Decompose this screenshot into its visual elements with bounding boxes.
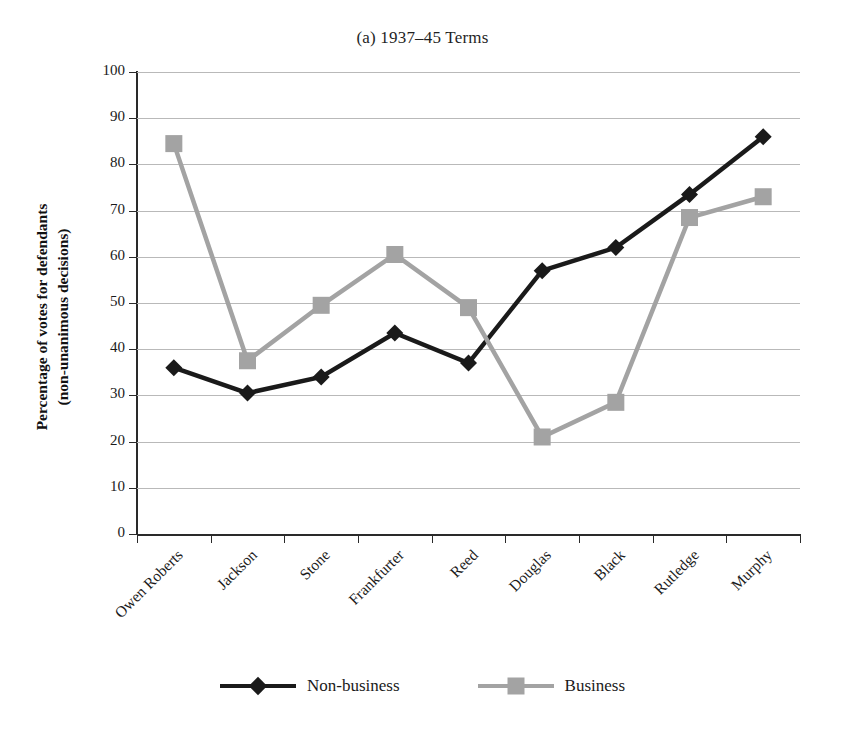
y-tick-mark-80 — [129, 164, 137, 165]
y-tick-mark-100 — [129, 72, 137, 73]
legend-label: Non-business — [307, 676, 400, 696]
y-tick-label-90: 90 — [79, 108, 125, 125]
y-tick-label-70: 70 — [79, 201, 125, 218]
y-tick-label-10: 10 — [79, 478, 125, 495]
data-point-marker — [386, 246, 403, 263]
data-point-marker — [681, 209, 698, 226]
legend-item-non-business[interactable]: Non-business — [220, 676, 400, 696]
data-point-marker — [607, 394, 624, 411]
y-tick-label-80: 80 — [79, 154, 125, 171]
series-layer — [137, 72, 800, 534]
data-point-marker — [165, 135, 182, 152]
y-tick-label-50: 50 — [79, 293, 125, 310]
data-point-marker — [460, 299, 477, 316]
legend-diamond-marker-icon — [249, 677, 267, 695]
legend-label: Business — [565, 676, 625, 696]
legend-item-business[interactable]: Business — [478, 676, 625, 696]
y-tick-label-60: 60 — [79, 247, 125, 264]
data-point-marker — [755, 188, 772, 205]
y-tick-label-40: 40 — [79, 339, 125, 356]
legend-square-marker-icon — [507, 678, 524, 695]
data-point-marker — [313, 297, 330, 314]
legend-swatch-icon — [478, 676, 554, 696]
series-business — [165, 135, 771, 445]
y-axis-title-line-2: (non-unanimous decisions) — [52, 127, 73, 507]
y-tick-mark-30 — [129, 395, 137, 396]
data-point-marker — [165, 359, 182, 376]
series-line — [174, 144, 763, 437]
plot-area — [137, 72, 800, 534]
y-tick-mark-20 — [129, 442, 137, 443]
y-tick-label-0: 0 — [79, 524, 125, 541]
y-tick-label-30: 30 — [79, 385, 125, 402]
y-tick-label-100: 100 — [79, 62, 125, 79]
y-tick-mark-40 — [129, 349, 137, 350]
chart-legend: Non-businessBusiness — [0, 676, 845, 696]
y-tick-mark-10 — [129, 488, 137, 489]
y-tick-mark-70 — [129, 211, 137, 212]
data-point-marker — [239, 352, 256, 369]
data-point-marker — [534, 428, 551, 445]
y-axis-title: Percentage of votes for defendants (non-… — [31, 127, 73, 507]
data-point-marker — [239, 385, 256, 402]
y-tick-mark-60 — [129, 257, 137, 258]
y-tick-mark-50 — [129, 303, 137, 304]
chart-figure: (a) 1937–45 Terms Percentage of votes fo… — [0, 0, 845, 746]
legend-swatch-icon — [220, 676, 296, 696]
y-tick-mark-90 — [129, 118, 137, 119]
chart-title: (a) 1937–45 Terms — [0, 28, 845, 48]
series-non-business — [165, 128, 771, 401]
y-tick-label-20: 20 — [79, 432, 125, 449]
y-tick-mark-0 — [129, 534, 137, 535]
y-axis-title-line-1: Percentage of votes for defendants — [31, 127, 52, 507]
x-tick-mark-9 — [800, 534, 801, 543]
x-axis-tick-labels: Owen RobertsJacksonStoneFrankfurterReedD… — [137, 534, 800, 654]
